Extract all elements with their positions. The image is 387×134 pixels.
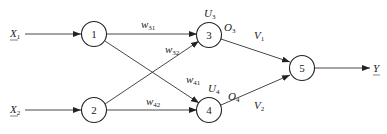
node-3-input-label: U3 (204, 7, 216, 21)
edge-3-to-5 (221, 39, 290, 62)
node-3: 3 (197, 23, 222, 48)
node-5-label: 5 (299, 62, 305, 74)
weight-w42-label: w42 (146, 95, 161, 109)
node-4-label: 4 (206, 104, 212, 116)
node-4-output-label: O4 (228, 90, 240, 104)
input-x1-label: X1 (9, 27, 21, 41)
node-4-input-label: U4 (208, 82, 220, 96)
neural-network-diagram: 1 2 3 4 5 X1 X2 w31 w32 w41 w42 V1 V2 U3… (0, 0, 387, 134)
weight-w41-label: w41 (186, 73, 201, 87)
output-y-label: Y (373, 62, 381, 74)
node-3-output-label: O3 (224, 21, 236, 35)
input-x2-label: X2 (9, 103, 21, 117)
weight-v1-label: V1 (254, 29, 265, 43)
weight-w32-label: w32 (165, 43, 180, 57)
node-1: 1 (82, 22, 107, 47)
node-4: 4 (197, 98, 222, 123)
node-3-label: 3 (206, 29, 212, 41)
node-2: 2 (82, 98, 107, 123)
node-2-label: 2 (91, 104, 97, 116)
node-1-label: 1 (91, 28, 97, 40)
node-5: 5 (290, 56, 315, 81)
weight-v2-label: V2 (254, 99, 265, 113)
weight-w31-label: w31 (141, 18, 156, 32)
